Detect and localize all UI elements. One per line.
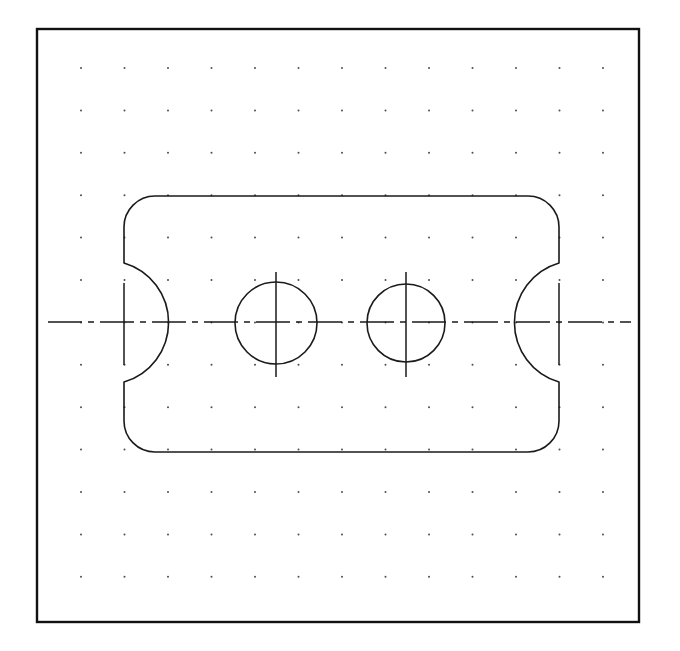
grid-dot: [167, 364, 169, 366]
grid-dot: [602, 237, 604, 239]
grid-dot: [298, 406, 300, 408]
grid-dot: [559, 67, 561, 69]
grid-dot: [298, 152, 300, 154]
grid-dot: [602, 152, 604, 154]
grid-dot: [124, 67, 126, 69]
grid-dot: [385, 576, 387, 578]
grid-dot: [211, 533, 213, 535]
grid-dot: [80, 449, 82, 451]
grid-dot: [298, 533, 300, 535]
grid-dot: [298, 449, 300, 451]
grid-dot: [472, 491, 474, 493]
grid-dot: [211, 152, 213, 154]
grid-dot: [515, 279, 517, 281]
grid-dot: [211, 237, 213, 239]
drawing-canvas[interactable]: [0, 0, 680, 651]
grid-dot: [254, 237, 256, 239]
grid-dot: [167, 576, 169, 578]
grid-dot: [341, 491, 343, 493]
grid-dot: [298, 576, 300, 578]
grid-dot: [211, 109, 213, 111]
grid-dot: [124, 449, 126, 451]
grid-dot: [602, 109, 604, 111]
grid-dot: [428, 491, 430, 493]
grid-dot: [515, 109, 517, 111]
grid-dot: [341, 576, 343, 578]
grid-dot: [211, 406, 213, 408]
grid-dot: [472, 364, 474, 366]
grid-dot: [298, 109, 300, 111]
grid-dot: [515, 491, 517, 493]
grid-dot: [515, 152, 517, 154]
grid-dot: [254, 109, 256, 111]
grid-dot: [341, 109, 343, 111]
grid-dot: [602, 67, 604, 69]
grid-dot: [385, 279, 387, 281]
grid-dot: [211, 576, 213, 578]
grid-dot: [211, 279, 213, 281]
grid-dot: [124, 576, 126, 578]
grid-dot: [80, 364, 82, 366]
grid-dot: [515, 364, 517, 366]
grid-dot: [80, 576, 82, 578]
grid-dot: [472, 576, 474, 578]
grid-dot: [428, 406, 430, 408]
grid-dot: [254, 449, 256, 451]
grid-dot: [428, 364, 430, 366]
grid-dot: [428, 533, 430, 535]
grid-dot: [254, 67, 256, 69]
grid-dot: [80, 67, 82, 69]
grid-dot: [254, 364, 256, 366]
grid-dot: [559, 576, 561, 578]
grid-dot: [167, 406, 169, 408]
grid-dot: [428, 109, 430, 111]
grid-dot: [602, 449, 604, 451]
grid-dot: [515, 576, 517, 578]
grid-dot: [602, 491, 604, 493]
grid-dot: [515, 449, 517, 451]
grid-dot: [602, 194, 604, 196]
grid-dot: [559, 109, 561, 111]
grid-dot: [124, 152, 126, 154]
grid-dot: [602, 406, 604, 408]
grid-dot: [124, 533, 126, 535]
grid-dot: [80, 109, 82, 111]
grid-dot: [80, 279, 82, 281]
grid-dot: [341, 449, 343, 451]
grid-dot: [472, 109, 474, 111]
grid-dot: [341, 237, 343, 239]
grid-dot: [167, 533, 169, 535]
grid-dot: [341, 406, 343, 408]
grid-dot: [428, 67, 430, 69]
grid-dot: [559, 279, 561, 281]
grid-dot: [428, 152, 430, 154]
grid-dot: [385, 491, 387, 493]
grid-dot: [428, 237, 430, 239]
grid-dot: [298, 491, 300, 493]
grid-dot: [472, 279, 474, 281]
grid-dot: [472, 533, 474, 535]
grid-dot: [385, 364, 387, 366]
grid-dot: [515, 67, 517, 69]
grid-dot: [211, 449, 213, 451]
grid-dot: [254, 491, 256, 493]
grid-dot: [124, 491, 126, 493]
grid-dot: [428, 576, 430, 578]
grid-dot: [472, 449, 474, 451]
grid-dot: [80, 491, 82, 493]
grid-dot: [602, 321, 604, 323]
grid-dot: [472, 237, 474, 239]
grid-dot: [211, 67, 213, 69]
grid-dot: [254, 406, 256, 408]
grid-dot: [602, 533, 604, 535]
grid-dot: [385, 449, 387, 451]
grid-dot: [385, 237, 387, 239]
grid-dot: [254, 152, 256, 154]
grid-dot: [298, 237, 300, 239]
canvas-background: [0, 0, 680, 651]
grid-dot: [80, 152, 82, 154]
grid-dot: [80, 237, 82, 239]
grid-dot: [254, 533, 256, 535]
grid-dot: [559, 491, 561, 493]
grid-dot: [428, 449, 430, 451]
